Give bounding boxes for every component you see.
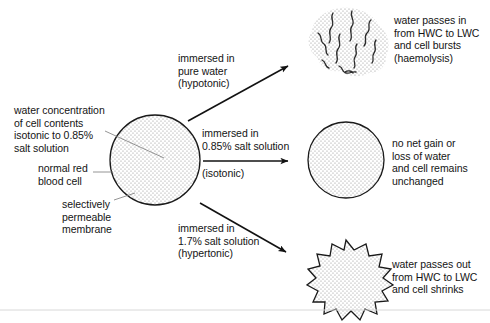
label-result-haemolysis: water passes in from HWC to LWC and cell…	[394, 14, 479, 64]
label-condition-hypotonic: immersed in pure water (hypotonic)	[178, 52, 235, 90]
label-result-shrinks: water passes out from HWC to LWC and cel…	[392, 258, 477, 296]
label-normal-red-blood-cell: normal red blood cell	[38, 162, 88, 187]
label-result-unchanged: no net gain or loss of water and cell re…	[392, 137, 468, 187]
burst-cell-shape	[309, 8, 389, 77]
label-condition-isotonic: immersed in 0.85% salt solution	[202, 127, 289, 152]
label-condition-isotonic-sub: (isotonic)	[202, 167, 244, 180]
label-water-concentration: water concentration of cell contents iso…	[14, 104, 105, 154]
crenated-cell-shape	[307, 240, 393, 320]
leader-water-concentration	[105, 131, 164, 158]
osmosis-diagram: water concentration of cell contents iso…	[0, 0, 490, 323]
leader-membrane	[114, 193, 135, 200]
normal-red-blood-cell	[110, 115, 200, 205]
label-selectively-permeable-membrane: selectively permeable membrane	[62, 198, 112, 236]
label-condition-hypertonic: immersed in 1.7% salt solution (hyperton…	[178, 222, 259, 260]
unchanged-cell-shape	[308, 122, 384, 198]
